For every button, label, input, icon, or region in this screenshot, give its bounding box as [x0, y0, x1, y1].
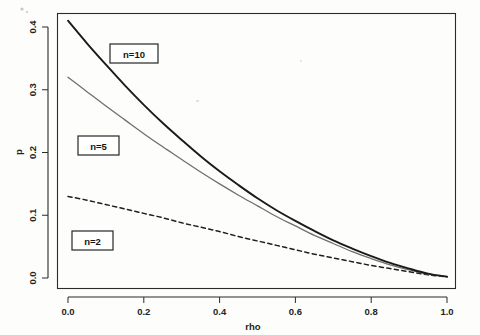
- y-ticks: [42, 27, 48, 278]
- annotation-label: n=5: [90, 141, 107, 152]
- x-tick-label: 0.4: [213, 306, 227, 317]
- y-tick-label: 0.2: [27, 146, 38, 159]
- annotation-n10: n=10: [110, 44, 158, 63]
- annotation-label: n=2: [84, 236, 101, 247]
- x-tick-label: 0.0: [61, 306, 74, 317]
- annotation-n5: n=5: [78, 136, 119, 155]
- x-axis-title: rho: [245, 321, 261, 332]
- y-tick-label: 0.4: [27, 20, 38, 34]
- y-tick-labels: 0.0 0.1 0.2 0.3 0.4: [27, 20, 38, 285]
- chart-figure: 0.0 0.2 0.4 0.6 0.8 1.0 0.0 0.1 0.2 0.3 …: [0, 0, 480, 335]
- annotation-n2: n=2: [72, 231, 113, 250]
- y-tick-label: 0.3: [27, 83, 38, 96]
- x-tick-label: 0.6: [289, 306, 302, 317]
- plot-svg: 0.0 0.2 0.4 0.6 0.8 1.0 0.0 0.1 0.2 0.3 …: [0, 0, 480, 335]
- y-axis-title: p: [13, 149, 24, 155]
- y-tick-label: 0.1: [27, 208, 38, 222]
- y-tick-label: 0.0: [27, 271, 38, 284]
- x-tick-label: 1.0: [440, 306, 453, 317]
- x-tick-label: 0.2: [137, 306, 150, 317]
- x-tick-label: 0.8: [365, 306, 378, 317]
- scan-artifacts: [20, 7, 302, 102]
- annotation-label: n=10: [123, 49, 145, 60]
- curve-n5: [68, 77, 447, 277]
- x-tick-labels: 0.0 0.2 0.4 0.6 0.8 1.0: [61, 306, 453, 317]
- x-ticks: [68, 297, 447, 303]
